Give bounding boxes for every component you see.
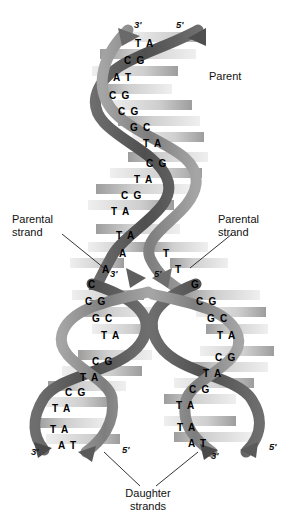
- base-pair-fork: T: [175, 264, 182, 275]
- base-pair-parent: G C: [130, 122, 151, 133]
- base-pair-parent: A T: [113, 72, 132, 83]
- base-pair-layer: T AC GA TC GC GG CT AC GT AC GT AT AATAT…: [0, 0, 292, 518]
- base-pair-parent: T A: [143, 138, 162, 149]
- base-pair-fork: C: [88, 279, 96, 290]
- base-pair-left-daughter: G C: [92, 313, 113, 324]
- base-pair-right-daughter: T A: [177, 422, 196, 433]
- dna-replication-figure: Parent Parental strand Parental strand D…: [0, 0, 292, 518]
- base-pair-fork: A: [102, 264, 110, 275]
- base-pair-right-daughter: T A: [203, 368, 222, 379]
- base-pair-right-daughter: C G: [215, 352, 236, 363]
- base-pair-parent: C G: [118, 106, 139, 117]
- base-pair-right-daughter: G C: [207, 313, 228, 324]
- base-pair-left-daughter: T A: [101, 330, 120, 341]
- base-pair-parent: C G: [124, 55, 145, 66]
- base-pair-fork: A: [119, 248, 127, 259]
- base-pair-right-daughter: T A: [176, 400, 195, 411]
- base-pair-fork: G: [191, 279, 200, 290]
- base-pair-right-daughter: C G: [189, 384, 210, 395]
- base-pair-left-daughter: C G: [92, 356, 113, 367]
- base-pair-left-daughter: A T: [58, 440, 77, 451]
- base-pair-parent: C G: [109, 90, 130, 101]
- base-pair-parent: T A: [116, 230, 135, 241]
- base-pair-parent: C G: [146, 158, 167, 169]
- base-pair-right-daughter: T A: [217, 330, 236, 341]
- base-pair-right-daughter: C G: [196, 296, 217, 307]
- base-pair-parent: T A: [135, 38, 154, 49]
- base-pair-parent: T A: [134, 174, 153, 185]
- base-pair-left-daughter: T A: [52, 403, 71, 414]
- base-pair-right-daughter: A T: [188, 438, 207, 449]
- base-pair-fork: T: [163, 248, 170, 259]
- base-pair-left-daughter: C G: [85, 296, 106, 307]
- base-pair-left-daughter: C G: [65, 387, 86, 398]
- base-pair-left-daughter: T A: [80, 372, 99, 383]
- base-pair-parent: T A: [111, 206, 130, 217]
- base-pair-parent: C G: [121, 190, 142, 201]
- base-pair-left-daughter: T A: [50, 424, 69, 435]
